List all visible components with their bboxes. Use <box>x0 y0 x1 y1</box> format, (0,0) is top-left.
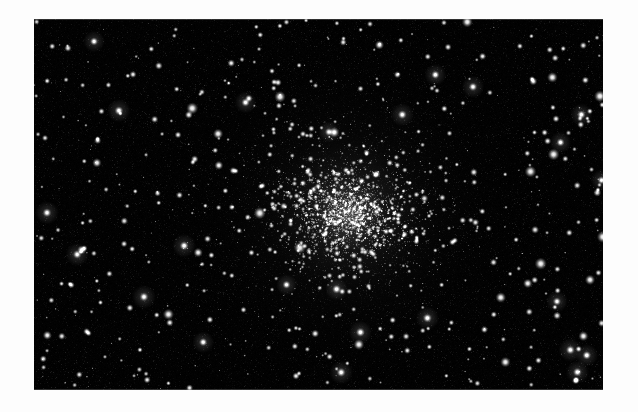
cluster-photograph <box>34 19 603 390</box>
starfield <box>34 19 603 390</box>
photographic-plate <box>34 19 603 390</box>
page-canvas <box>0 0 638 412</box>
